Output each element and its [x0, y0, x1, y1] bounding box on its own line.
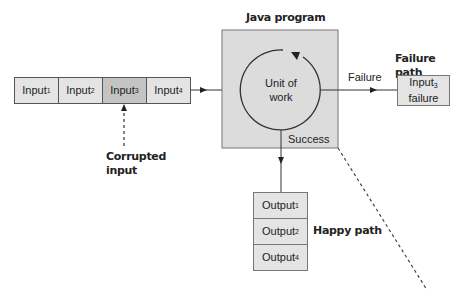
diagram-connectors: [0, 0, 463, 303]
success-edge-label: Success: [288, 133, 330, 145]
input-cell-2: Input2: [58, 77, 103, 104]
failure-output-box: Input3 failure: [397, 75, 450, 106]
input-cell-1: Input1: [14, 77, 59, 104]
failure-edge-label: Failure: [348, 71, 382, 83]
corrupted-input-label: Corrupted input: [106, 150, 166, 178]
output-cell-2: Output2: [253, 218, 308, 245]
input-arrow-icon: [200, 87, 207, 93]
happy-path-label: Happy path: [313, 224, 382, 238]
output-cell-4: Output4: [253, 244, 308, 271]
corrupted-arrow-icon: [121, 104, 127, 111]
input-cell-3-corrupted: Input3: [102, 77, 147, 104]
zoom-leader-line: [338, 148, 427, 290]
output-cell-1: Output1: [253, 192, 308, 219]
failure-arrow-icon: [370, 87, 377, 93]
java-program-title: Java program: [246, 11, 325, 25]
input-cell-4: Input4: [146, 77, 191, 104]
unit-of-work-label: Unit of work: [251, 76, 311, 104]
success-arrow-icon: [278, 157, 284, 164]
